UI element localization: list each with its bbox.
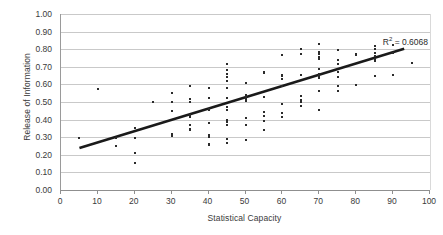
x-tick-mark	[97, 190, 98, 194]
data-point	[263, 120, 265, 122]
data-point	[189, 129, 191, 131]
x-tick-mark	[355, 190, 356, 194]
data-point	[281, 112, 283, 114]
data-point	[226, 63, 228, 65]
data-point	[355, 84, 357, 86]
data-point	[300, 48, 302, 50]
data-point	[263, 111, 265, 113]
data-point	[226, 69, 228, 71]
data-point	[134, 127, 136, 129]
data-point	[245, 100, 247, 102]
data-point	[281, 54, 283, 56]
x-tick-mark	[392, 190, 393, 194]
data-point	[189, 116, 191, 118]
data-point	[337, 76, 339, 78]
data-point	[152, 101, 154, 103]
data-point	[300, 101, 302, 103]
trendline	[61, 14, 430, 190]
data-point	[374, 48, 376, 50]
trendline-segment	[79, 49, 404, 148]
data-point	[300, 74, 302, 76]
data-point	[374, 55, 376, 57]
data-point	[337, 90, 339, 92]
data-point	[189, 124, 191, 126]
x-tick-label: 30	[166, 196, 175, 206]
data-point	[134, 162, 136, 164]
data-point	[115, 137, 117, 139]
r-squared-annotation: R2 = 0.6068	[383, 36, 428, 47]
x-axis-ticks	[60, 190, 430, 195]
x-tick-mark	[245, 190, 246, 194]
x-tick-label: 10	[92, 196, 101, 206]
data-point	[226, 97, 228, 99]
data-point	[355, 54, 357, 56]
data-point	[263, 129, 265, 131]
x-tick-mark	[171, 190, 172, 194]
x-tick-label: 20	[129, 196, 138, 206]
x-tick-mark	[318, 190, 319, 194]
data-point	[263, 96, 265, 98]
x-tick-label: 100	[422, 196, 436, 206]
data-point	[318, 58, 320, 60]
y-tick-label: 0.30	[5, 132, 57, 142]
data-point	[189, 98, 191, 100]
data-point	[97, 88, 99, 90]
data-point	[208, 109, 210, 111]
y-tick-label: 0.50	[5, 97, 57, 107]
y-tick-label: 0.70	[5, 62, 57, 72]
data-point	[226, 80, 228, 82]
data-point	[392, 74, 394, 76]
x-tick-label: 50	[240, 196, 249, 206]
data-point	[374, 52, 376, 54]
data-point	[78, 137, 80, 139]
y-tick-label: 0.60	[5, 79, 57, 89]
data-point	[226, 138, 228, 140]
data-point	[134, 152, 136, 154]
x-tick-label: 60	[277, 196, 286, 206]
x-tick-mark	[60, 190, 61, 194]
data-point	[189, 101, 191, 103]
x-axis-title: Statistical Capacity	[60, 213, 429, 223]
data-point	[300, 53, 302, 55]
data-point	[318, 68, 320, 70]
data-point	[318, 43, 320, 45]
data-point	[300, 105, 302, 107]
y-tick-label: 1.00	[5, 9, 57, 19]
data-point	[189, 85, 191, 87]
data-point	[281, 103, 283, 105]
x-tick-mark	[281, 190, 282, 194]
data-point	[374, 60, 376, 62]
data-point	[245, 117, 247, 119]
data-point	[171, 135, 173, 137]
data-point	[208, 97, 210, 99]
r-squared-suffix: = 0.6068	[392, 37, 428, 47]
plot-area: R2 = 0.6068	[60, 14, 431, 190]
data-point	[226, 76, 228, 78]
x-tick-label: 80	[350, 196, 359, 206]
data-point	[208, 87, 210, 89]
x-tick-label: 70	[314, 196, 323, 206]
data-point	[134, 137, 136, 139]
y-axis-tick-labels: 0.000.100.200.300.400.500.600.700.800.90…	[0, 14, 57, 190]
y-tick-label: 0.20	[5, 150, 57, 160]
data-point	[318, 109, 320, 111]
data-point	[263, 115, 265, 117]
data-point	[374, 75, 376, 77]
data-point	[208, 144, 210, 146]
x-axis-tick-labels: 0102030405060708090100	[60, 196, 430, 210]
data-point	[281, 116, 283, 118]
data-point	[318, 90, 320, 92]
data-point	[245, 82, 247, 84]
data-point	[374, 45, 376, 47]
data-point	[226, 87, 228, 89]
data-point	[411, 62, 413, 64]
data-point	[171, 110, 173, 112]
data-point	[171, 101, 173, 103]
data-point	[226, 73, 228, 75]
data-point	[245, 124, 247, 126]
data-point	[337, 85, 339, 87]
y-tick-label: 0.80	[5, 44, 57, 54]
data-point	[208, 122, 210, 124]
data-point	[226, 109, 228, 111]
x-tick-mark	[208, 190, 209, 194]
